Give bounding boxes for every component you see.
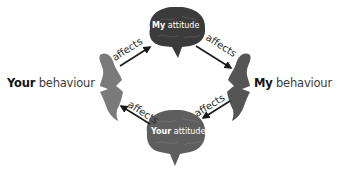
label-my-behaviour-bold: My — [254, 76, 273, 90]
label-my-attitude: My attitude — [152, 21, 199, 30]
label-my-behaviour-rest: behaviour — [273, 76, 332, 90]
attitude-behaviour-cycle-diagram: Your behaviour My behaviour My attitude … — [0, 0, 340, 175]
head-silhouette-left — [99, 54, 123, 121]
label-your-behaviour-rest: behaviour — [35, 76, 94, 90]
brain-icon-my-attitude — [150, 7, 206, 58]
label-your-attitude: Your attitude — [151, 127, 205, 136]
label-your-behaviour-bold: Your — [7, 76, 35, 90]
label-my-behaviour: My behaviour — [254, 76, 332, 90]
label-your-behaviour: Your behaviour — [7, 76, 95, 90]
label-your-attitude-bold: Your — [151, 127, 171, 136]
head-silhouette-right — [227, 54, 251, 121]
label-my-attitude-rest: attitude — [165, 21, 199, 30]
label-my-attitude-bold: My — [152, 21, 165, 30]
label-your-attitude-rest: attitude — [171, 127, 205, 136]
